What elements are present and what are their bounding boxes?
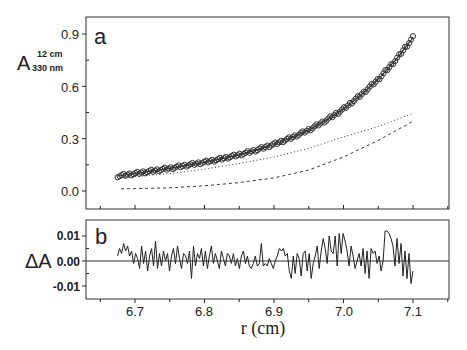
panel-a-ytick-0.9: 0.9 [61, 27, 79, 42]
panel-b-ylabel: ΔA [25, 250, 52, 272]
panel-b-residuals [118, 231, 413, 284]
xtick-7.1: 7.1 [404, 304, 422, 319]
panel-b-letter: b [95, 224, 107, 249]
panel-b-ytick-0.01: 0.01 [57, 229, 81, 243]
panel-a-series [115, 34, 416, 189]
x-axis-label: r (cm) [241, 318, 285, 339]
panel-a: a 0.9 0.6 0.3 0.0 A 12 cm 330 nm [17, 17, 449, 209]
panel-a-ylabel: A [17, 52, 31, 74]
panel-b-x-ticks [100, 299, 448, 303]
panel-a-ytick-0.0: 0.0 [61, 184, 79, 199]
panel-a-ytick-0.6: 0.6 [61, 80, 79, 95]
xtick-6.8: 6.8 [195, 304, 213, 319]
xtick-6.7: 6.7 [126, 304, 144, 319]
xtick-7.0: 7.0 [335, 304, 353, 319]
panel-a-ylabel-superscript: 12 cm [37, 49, 63, 59]
panel-a-ylabel-subscript: 330 nm [32, 63, 63, 73]
residual-line [118, 231, 413, 284]
xtick-6.9: 6.9 [265, 304, 283, 319]
panel-a-letter: a [94, 24, 107, 49]
figure: a 0.9 0.6 0.3 0.0 A 12 cm 330 nm b 0.01 … [0, 0, 467, 350]
panel-a-frame [86, 17, 449, 209]
fit-line [118, 38, 413, 177]
panel-b-ytick-neg0.01: -0.01 [53, 280, 81, 294]
panel-a-x-ticks [100, 205, 448, 209]
panel-a-ytick-0.3: 0.3 [61, 132, 79, 147]
x-axis: 6.7 6.8 6.9 7.0 7.1 r (cm) [126, 304, 422, 339]
panel-b-ytick-0.00: 0.00 [57, 255, 81, 269]
panel-b: b 0.01 0.00 -0.01 ΔA [25, 220, 449, 303]
component-dashed-line [121, 121, 413, 189]
